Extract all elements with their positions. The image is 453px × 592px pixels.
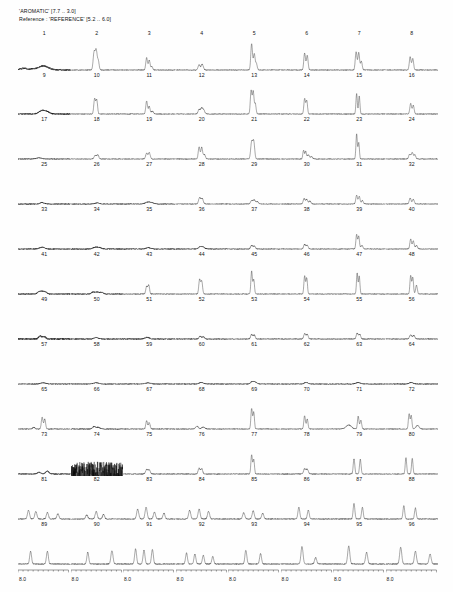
spectrum-panel-6[interactable]: 614 (281, 30, 334, 82)
spectrum-panel-19[interactable]: 27 (123, 127, 176, 172)
spectrum-panel-47[interactable]: 55 (333, 262, 386, 307)
spectrum-panel-30[interactable]: 38 (281, 172, 334, 217)
spectrum-panel-72[interactable]: 80 (386, 397, 439, 442)
spectrum-panel-68[interactable]: 76 (176, 397, 229, 442)
spectrum-label: 95 (333, 521, 386, 527)
spectrum-panel-37[interactable]: 45 (228, 217, 281, 262)
spectrum-panel-32[interactable]: 40 (386, 172, 439, 217)
spectrum-panel-24[interactable]: 32 (386, 127, 439, 172)
spectrum-panel-74[interactable]: 82 (71, 442, 124, 487)
spectrum-panel-62[interactable]: 70 (281, 352, 334, 397)
spectrum-panel-40[interactable]: 48 (386, 217, 439, 262)
spectrum-panel-59[interactable]: 67 (123, 352, 176, 397)
spectrum-panel-80[interactable]: 88 (386, 442, 439, 487)
spectrum-panel-45[interactable]: 53 (228, 262, 281, 307)
spectrum-label: 23 (333, 116, 386, 122)
spectrum-panel-13[interactable]: 21 (228, 82, 281, 127)
spectrum-label: 96 (386, 521, 439, 527)
spectrum-panel-23[interactable]: 31 (333, 127, 386, 172)
spectrum-panel-29[interactable]: 37 (228, 172, 281, 217)
spectrum-panel-54[interactable]: 62 (281, 307, 334, 352)
spectrum-trace (333, 487, 386, 521)
spectrum-trace (71, 397, 124, 431)
spectrum-panel-38[interactable]: 46 (281, 217, 334, 262)
spectrum-panel-16[interactable]: 24 (386, 82, 439, 127)
spectrum-panel-20[interactable]: 28 (176, 127, 229, 172)
spectrum-panel-75[interactable]: 83 (123, 442, 176, 487)
spectrum-panel-28[interactable]: 36 (176, 172, 229, 217)
spectrum-panel-73[interactable]: 81 (18, 442, 71, 487)
spectrum-panel-58[interactable]: 66 (71, 352, 124, 397)
spectrum-panel-2[interactable]: 210 (71, 30, 124, 82)
spectrum-panel-61[interactable]: 69 (228, 352, 281, 397)
spectrum-label: 50 (71, 296, 124, 302)
spectrum-panel-87[interactable]: 95 (333, 487, 386, 532)
spectrum-panel-3[interactable]: 311 (123, 30, 176, 82)
spectrum-panel-55[interactable]: 63 (333, 307, 386, 352)
spectrum-panel-57[interactable]: 65 (18, 352, 71, 397)
spectrum-panel-88[interactable]: 96 (386, 487, 439, 532)
spectrum-panel-85[interactable]: 93 (228, 487, 281, 532)
spectrum-panel-64[interactable]: 72 (386, 352, 439, 397)
spectrum-panel-50[interactable]: 58 (71, 307, 124, 352)
spectrum-panel-26[interactable]: 34 (71, 172, 124, 217)
spectrum-panel-46[interactable]: 54 (281, 262, 334, 307)
spectrum-panel-81[interactable]: 89 (18, 487, 71, 532)
spectrum-panel-12[interactable]: 20 (176, 82, 229, 127)
spectrum-panel-77[interactable]: 85 (228, 442, 281, 487)
spectrum-panel-27[interactable]: 35 (123, 172, 176, 217)
spectrum-panel-42[interactable]: 50 (71, 262, 124, 307)
spectrum-panel-84[interactable]: 92 (176, 487, 229, 532)
spectrum-panel-51[interactable]: 59 (123, 307, 176, 352)
spectrum-panel-36[interactable]: 44 (176, 217, 229, 262)
spectrum-panel-34[interactable]: 42 (71, 217, 124, 262)
spectrum-panel-43[interactable]: 51 (123, 262, 176, 307)
spectrum-panel-8[interactable]: 816 (386, 30, 439, 82)
spectrum-panel-18[interactable]: 26 (71, 127, 124, 172)
spectrum-panel-69[interactable]: 77 (228, 397, 281, 442)
spectrum-panel-79[interactable]: 87 (333, 442, 386, 487)
spectrum-panel-67[interactable]: 75 (123, 397, 176, 442)
spectrum-panel-60[interactable]: 68 (176, 352, 229, 397)
spectrum-trace (228, 82, 281, 116)
spectrum-panel-66[interactable]: 74 (71, 397, 124, 442)
spectrum-panel-5[interactable]: 513 (228, 30, 281, 82)
spectrum-panel-48[interactable]: 56 (386, 262, 439, 307)
spectrum-panel-65[interactable]: 73 (18, 397, 71, 442)
spectrum-panel-86[interactable]: 94 (281, 487, 334, 532)
spectrum-panel-70[interactable]: 78 (281, 397, 334, 442)
spectrum-panel-25[interactable]: 33 (18, 172, 71, 217)
spectrum-panel-22[interactable]: 30 (281, 127, 334, 172)
spectrum-panel-39[interactable]: 47 (333, 217, 386, 262)
spectrum-panel-31[interactable]: 39 (333, 172, 386, 217)
spectrum-trace (281, 352, 334, 386)
spectrum-label: 36 (176, 206, 229, 212)
spectrum-panel-52[interactable]: 60 (176, 307, 229, 352)
spectrum-panel-41[interactable]: 49 (18, 262, 71, 307)
spectrum-panel-7[interactable]: 715 (333, 30, 386, 82)
spectrum-panel-44[interactable]: 52 (176, 262, 229, 307)
spectrum-panel-21[interactable]: 29 (228, 127, 281, 172)
spectrum-panel-1[interactable]: 19 (18, 30, 71, 82)
spectrum-panel-35[interactable]: 43 (123, 217, 176, 262)
spectrum-panel-11[interactable]: 19 (123, 82, 176, 127)
spectrum-trace (228, 127, 281, 161)
spectrum-panel-82[interactable]: 90 (71, 487, 124, 532)
spectrum-panel-53[interactable]: 61 (228, 307, 281, 352)
spectrum-panel-10[interactable]: 18 (71, 82, 124, 127)
spectrum-panel-4[interactable]: 412 (176, 30, 229, 82)
spectrum-panel-9[interactable]: 17 (18, 82, 71, 127)
spectrum-panel-17[interactable]: 25 (18, 127, 71, 172)
spectrum-panel-49[interactable]: 57 (18, 307, 71, 352)
spectrum-panel-14[interactable]: 22 (281, 82, 334, 127)
spectrum-panel-33[interactable]: 41 (18, 217, 71, 262)
spectrum-panel-78[interactable]: 86 (281, 442, 334, 487)
spectrum-panel-71[interactable]: 79 (333, 397, 386, 442)
spectrum-panel-56[interactable]: 64 (386, 307, 439, 352)
spectrum-panel-83[interactable]: 91 (123, 487, 176, 532)
spectrum-label: 52 (176, 296, 229, 302)
spectrum-label: 79 (333, 431, 386, 437)
spectrum-panel-63[interactable]: 71 (333, 352, 386, 397)
spectrum-panel-15[interactable]: 23 (333, 82, 386, 127)
spectrum-panel-76[interactable]: 84 (176, 442, 229, 487)
